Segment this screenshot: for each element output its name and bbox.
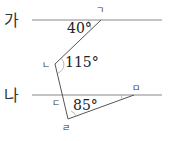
point-label-mieum: ㅁ bbox=[132, 83, 140, 93]
point-label-digeut: ㄷ bbox=[52, 98, 60, 108]
line-label-na: 나 bbox=[4, 86, 19, 105]
angle-arc-mieum bbox=[121, 95, 122, 99]
point-label-nieun: ㄴ bbox=[42, 60, 50, 70]
angle-label-40: 40° bbox=[67, 20, 92, 36]
point-label-giyeok: ㄱ bbox=[96, 5, 104, 15]
point-label-rieul: ㄹ bbox=[62, 123, 70, 133]
segment-nieun-rieul bbox=[55, 64, 68, 119]
parallel-lines-diagram: 가 나 ㄱ ㄴ ㄷ ㄹ ㅁ 40° 115° 85° bbox=[0, 0, 170, 141]
line-label-ga: 가 bbox=[4, 11, 19, 30]
angle-label-85: 85° bbox=[73, 97, 98, 113]
angle-label-115: 115° bbox=[65, 54, 99, 70]
